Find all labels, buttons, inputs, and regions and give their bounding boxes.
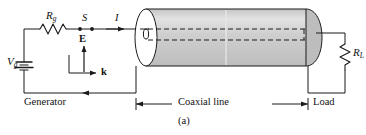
load-resistance-label: RL: [353, 47, 364, 60]
battery-symbol: [15, 62, 33, 70]
coaxial-cylinder: [135, 9, 322, 66]
current-label: I: [115, 13, 119, 24]
source-base: V: [7, 55, 14, 67]
rg-sub: g: [53, 14, 57, 23]
k-vector-arrow: [69, 55, 96, 73]
figure-caption: (a): [178, 116, 190, 127]
wave-vector-label: k: [101, 67, 107, 78]
rl-sub: L: [360, 51, 364, 60]
source-sub: g: [14, 60, 18, 69]
rg-base: R: [46, 9, 53, 21]
generator-resistance-label: Rg: [46, 10, 56, 23]
generator-voltage-source-label: Vg: [7, 56, 17, 69]
return-current-arrowhead: [82, 90, 89, 95]
generator-region-label: Generator: [24, 97, 66, 108]
transmission-line-figure: Vg Rg S I E k RL Generator Coaxial line …: [0, 0, 366, 135]
switch-label: S: [82, 13, 87, 24]
rl-base: R: [353, 46, 360, 58]
generator-resistor-symbol: [40, 24, 66, 34]
load-resistor-symbol: [340, 44, 350, 70]
load-region-label: Load: [313, 97, 335, 108]
coaxial-line-region-label: Coaxial line: [176, 97, 231, 108]
inner-conductor-endcap: [143, 29, 148, 39]
electric-field-label: E: [79, 34, 86, 45]
